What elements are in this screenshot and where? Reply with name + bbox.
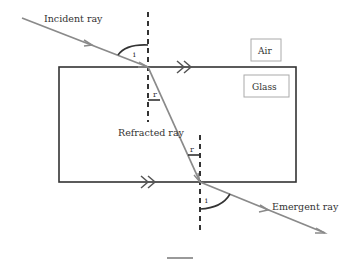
- angle-i-top-label: i: [133, 50, 136, 59]
- angle-r-top-label: r: [153, 90, 157, 99]
- angle-i-bottom-label: i: [205, 196, 208, 205]
- emergent-ray-label: Emergent ray: [272, 201, 339, 212]
- incident-ray-label: Incident ray: [44, 13, 103, 24]
- air-label: Air: [257, 46, 272, 56]
- refraction-diagram: i r r i Incident ray Refracted ray Emerg…: [0, 0, 346, 268]
- angle-r-bottom-label: r: [190, 145, 194, 154]
- refracted-ray: [148, 67, 200, 182]
- refracted-ray-label: Refracted ray: [118, 127, 185, 138]
- glass-label: Glass: [252, 82, 277, 92]
- incident-ray: [22, 18, 148, 67]
